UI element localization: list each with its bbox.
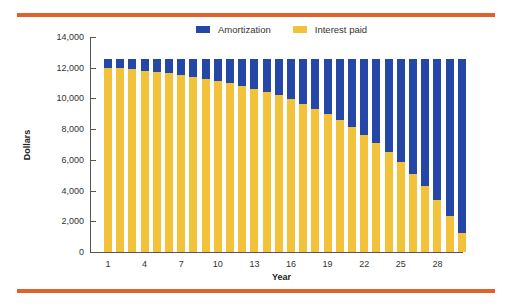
interest-segment: [214, 81, 222, 252]
interest-segment: [226, 83, 234, 252]
amortization-segment: [421, 59, 429, 186]
legend-label-interest: Interest paid: [315, 24, 367, 35]
y-tick-mark: [90, 191, 96, 192]
year-bar: [250, 59, 258, 252]
amortization-segment: [275, 59, 283, 95]
y-tick-label: 8,000: [24, 124, 84, 134]
year-bar: [458, 59, 466, 252]
interest-segment: [397, 162, 405, 252]
top-rule: [17, 13, 495, 17]
amortization-segment: [372, 59, 380, 143]
legend-label-amortization: Amortization: [218, 24, 271, 35]
interest-segment: [263, 92, 271, 252]
interest-segment: [421, 186, 429, 252]
interest-segment: [189, 77, 197, 252]
amortization-segment: [336, 59, 344, 120]
interest-segment: [385, 152, 393, 252]
x-tick-label: 19: [318, 259, 338, 269]
interest-segment: [311, 109, 319, 252]
x-axis: [90, 252, 463, 253]
bottom-rule: [17, 289, 495, 293]
year-bar: [299, 59, 307, 252]
interest-segment: [116, 68, 124, 252]
amortization-segment: [397, 59, 405, 162]
amortization-segment: [202, 59, 210, 78]
x-tick-label: 7: [171, 259, 191, 269]
amortization-segment: [128, 59, 136, 69]
year-bar: [275, 59, 283, 252]
amortization-segment: [409, 59, 417, 173]
y-tick-label: 2,000: [24, 216, 84, 226]
interest-segment: [275, 95, 283, 252]
year-bar: [311, 59, 319, 252]
interest-segment: [202, 79, 210, 252]
interest-segment: [409, 174, 417, 252]
amortization-segment: [299, 59, 307, 104]
x-tick-label: 28: [427, 259, 447, 269]
year-bar: [202, 59, 210, 252]
amortization-segment: [189, 59, 197, 76]
y-tick-mark: [90, 221, 96, 222]
year-bar: [324, 59, 332, 252]
amortization-segment: [287, 59, 295, 99]
amortization-segment: [433, 59, 441, 200]
interest-segment: [165, 73, 173, 252]
year-bar: [433, 59, 441, 252]
year-bar: [372, 59, 380, 252]
interest-segment: [433, 200, 441, 252]
year-bar: [141, 59, 149, 252]
year-bar: [263, 59, 271, 252]
y-tick-label: 12,000: [24, 63, 84, 73]
y-tick-label: 14,000: [24, 32, 84, 42]
year-bar: [409, 59, 417, 252]
amortization-segment: [360, 59, 368, 134]
y-tick-label: 4,000: [24, 186, 84, 196]
year-bar: [104, 59, 112, 252]
amortization-segment: [263, 59, 271, 92]
legend-item-amortization: Amortization: [196, 24, 271, 35]
y-tick-label: 6,000: [24, 155, 84, 165]
year-bar: [165, 59, 173, 252]
interest-segment: [360, 135, 368, 252]
y-tick-mark: [90, 160, 96, 161]
interest-segment: [104, 68, 112, 252]
year-bar: [214, 59, 222, 252]
interest-segment: [458, 233, 466, 252]
interest-segment: [372, 143, 380, 252]
year-bar: [177, 59, 185, 252]
x-tick-label: 1: [98, 259, 118, 269]
interest-segment: [141, 71, 149, 252]
amortization-segment: [104, 59, 112, 67]
y-tick-mark: [90, 68, 96, 69]
y-tick-mark: [90, 37, 96, 38]
amortization-segment: [348, 59, 356, 127]
amortization-segment: [311, 59, 319, 109]
interest-segment: [446, 216, 454, 252]
amortization-segment: [141, 59, 149, 71]
amortization-segment: [250, 59, 258, 88]
y-tick-label: 10,000: [24, 93, 84, 103]
amortization-segment: [446, 59, 454, 216]
amortization-segment: [238, 59, 246, 86]
year-bar: [238, 59, 246, 252]
interest-segment: [238, 86, 246, 252]
year-bar: [360, 59, 368, 252]
interest-segment: [177, 75, 185, 252]
amortization-segment: [385, 59, 393, 152]
amortization-segment: [177, 59, 185, 75]
amortization-segment: [458, 59, 466, 233]
year-bar: [397, 59, 405, 252]
interest-swatch: [293, 26, 307, 33]
year-bar: [153, 59, 161, 252]
amortization-segment: [214, 59, 222, 81]
year-bar: [116, 59, 124, 252]
x-tick-label: 13: [244, 259, 264, 269]
y-tick-mark: [90, 98, 96, 99]
amortization-segment: [165, 59, 173, 73]
x-axis-title: Year: [272, 272, 291, 282]
y-tick-mark: [90, 129, 96, 130]
amortization-swatch: [196, 26, 210, 33]
x-tick-label: 22: [354, 259, 374, 269]
y-tick-label: 0: [24, 247, 84, 257]
year-bar: [385, 59, 393, 252]
